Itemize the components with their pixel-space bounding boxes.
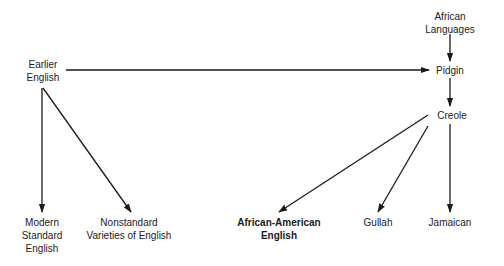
node-label-line: African [425, 10, 475, 23]
node-jamaican: Jamaican [429, 216, 472, 229]
node-label-line: Varieties of English [87, 229, 172, 242]
node-label-line: English [27, 71, 60, 84]
node-modern-standard-english: Modern Standard English [22, 216, 63, 255]
node-label-line: English [237, 229, 320, 242]
node-african-languages: African Languages [425, 10, 475, 36]
node-african-american-english: African-American English [237, 216, 320, 242]
node-label-line: Standard [22, 229, 63, 242]
node-creole: Creole [437, 109, 466, 122]
edge-creole-to-gullah [378, 126, 428, 212]
node-label-line: English [22, 242, 63, 255]
node-label-line: Gullah [364, 216, 393, 229]
node-nonstandard-varieties: Nonstandard Varieties of English [87, 216, 172, 242]
edge-earlier-english-to-nonstandard [43, 88, 131, 212]
node-label-line: Jamaican [429, 216, 472, 229]
node-label-line: Earlier [27, 58, 60, 71]
node-label-line: Languages [425, 23, 475, 36]
node-pidgin: Pidgin [436, 64, 464, 77]
node-gullah: Gullah [364, 216, 393, 229]
node-label-line: Modern [22, 216, 63, 229]
node-label-line: Nonstandard [87, 216, 172, 229]
node-label-line: Pidgin [436, 64, 464, 77]
node-label-line: African-American [237, 216, 320, 229]
node-label-line: Creole [437, 109, 466, 122]
node-earlier-english: Earlier English [27, 58, 60, 84]
